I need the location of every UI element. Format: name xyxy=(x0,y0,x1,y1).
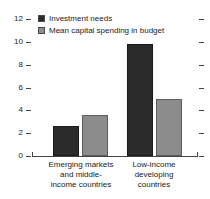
chart-legend: Investment needs Mean capital spending i… xyxy=(38,13,164,35)
y-tick-mark-left xyxy=(26,65,31,66)
category-label-line: developing xyxy=(108,170,200,180)
x-axis-right-cap xyxy=(197,152,198,157)
x-axis-left-cap xyxy=(32,152,33,157)
legend-swatch-gray-icon xyxy=(38,27,45,34)
category-label-line: countries xyxy=(108,180,200,190)
bar-investment-needs-group-0 xyxy=(53,126,79,156)
y-tick-mark-left xyxy=(26,133,31,134)
y-tick-label: 12 xyxy=(14,14,23,24)
y-tick-mark-right xyxy=(199,156,204,157)
category-label-1: Low-incomedevelopingcountries xyxy=(108,160,200,190)
legend-item-mean-capital-spending: Mean capital spending in budget xyxy=(38,25,164,35)
y-tick-mark-left xyxy=(26,88,31,89)
y-tick-label: 0 xyxy=(19,151,23,161)
category-label-line: Low-income xyxy=(108,160,200,170)
y-tick-mark-right xyxy=(199,42,204,43)
x-axis-category-labels: Emerging marketsand middle-income countr… xyxy=(32,160,198,198)
y-tick-mark-right xyxy=(199,110,204,111)
y-tick-mark-left xyxy=(26,42,31,43)
y-tick-label: 6 xyxy=(19,83,23,93)
x-axis-line xyxy=(32,156,198,157)
y-tick-mark-right xyxy=(199,88,204,89)
bar-mean-capital-spending-group-0 xyxy=(82,115,108,156)
y-tick-mark-left xyxy=(26,110,31,111)
y-tick-label: 10 xyxy=(14,37,23,47)
y-tick-label: 2 xyxy=(19,128,23,138)
y-tick-mark-right xyxy=(199,133,204,134)
legend-label-mean-capital-spending: Mean capital spending in budget xyxy=(49,26,164,35)
bar-mean-capital-spending-group-1 xyxy=(156,99,182,156)
y-tick-label: 4 xyxy=(19,105,23,115)
bar-investment-needs-group-1 xyxy=(127,44,153,156)
legend-swatch-dark-icon xyxy=(38,15,45,22)
y-tick-mark-right xyxy=(199,65,204,66)
y-tick-label: 8 xyxy=(19,60,23,70)
bar-chart: Investment needs Mean capital spending i… xyxy=(0,0,210,199)
legend-label-investment-needs: Investment needs xyxy=(49,14,112,23)
y-tick-mark-left xyxy=(26,156,31,157)
y-tick-mark-left xyxy=(26,19,31,20)
y-tick-mark-right xyxy=(199,19,204,20)
legend-item-investment-needs: Investment needs xyxy=(38,13,164,23)
plot-area: 024681012 xyxy=(32,20,198,157)
